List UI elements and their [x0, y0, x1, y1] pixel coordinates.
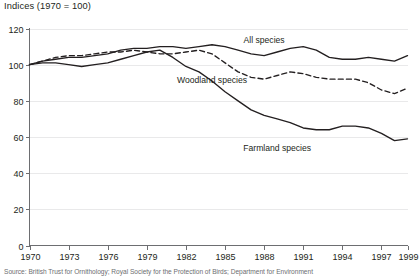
tickmarks-group — [26, 30, 409, 250]
x-axis-labels-group: 1970197319761979198219851988199119941997… — [20, 252, 418, 262]
x-tick-label-1976: 1976 — [98, 252, 118, 262]
x-tick-label-1994: 1994 — [332, 252, 352, 262]
y-tick-label-20: 20 — [13, 205, 23, 215]
y-tick-label-40: 40 — [13, 169, 23, 179]
x-tick-label-1985: 1985 — [215, 252, 235, 262]
y-tick-label-60: 60 — [13, 133, 23, 143]
series-label-farmland-species: Farmland species — [243, 143, 311, 153]
series-line-farmland-species — [30, 50, 408, 140]
series-labels-group: All speciesWoodland speciesFarmland spec… — [177, 35, 311, 153]
y-axis-labels-group: 020406080100120 — [8, 25, 23, 252]
x-tick-label-1997: 1997 — [371, 252, 391, 262]
x-tick-label-1991: 1991 — [293, 252, 313, 262]
series-label-woodland-species: Woodland species — [177, 75, 247, 85]
x-tick-label-1970: 1970 — [20, 252, 40, 262]
x-tick-label-1982: 1982 — [176, 252, 196, 262]
data-series-group — [30, 45, 408, 141]
chart-figure: Indices (1970 = 100) 020406080100120 197… — [0, 0, 419, 277]
y-tick-label-100: 100 — [8, 61, 23, 71]
axes-group — [30, 28, 409, 246]
x-tick-label-1979: 1979 — [137, 252, 157, 262]
x-tick-label-1973: 1973 — [59, 252, 79, 262]
y-tick-label-0: 0 — [18, 242, 23, 252]
line-chart-plot: 020406080100120 197019731976197919821985… — [0, 0, 419, 277]
x-tick-label-1999: 1999 — [398, 252, 418, 262]
series-label-all-species: All species — [244, 35, 285, 45]
y-tick-label-120: 120 — [8, 25, 23, 35]
source-note: Source: British Trust for Ornithology; R… — [4, 268, 313, 275]
y-tick-label-80: 80 — [13, 97, 23, 107]
x-tick-label-1988: 1988 — [254, 252, 274, 262]
